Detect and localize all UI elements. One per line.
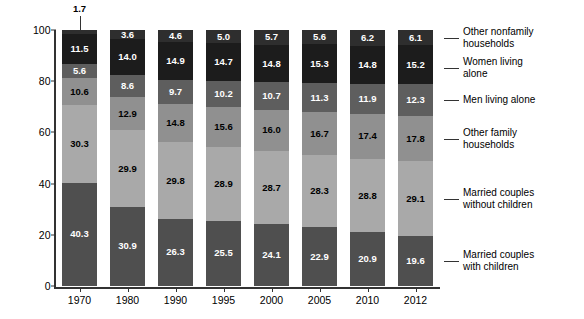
bar-segment: 5.6	[302, 30, 337, 44]
bar-segment	[62, 30, 97, 34]
x-tick-mark	[368, 287, 369, 292]
bar-segment: 6.2	[350, 30, 385, 46]
bar-segment-value: 10.2	[206, 89, 241, 99]
bar-segment-value: 29.9	[110, 164, 145, 174]
legend-label: Married couples with children	[463, 249, 534, 272]
bar-segment: 8.6	[110, 75, 145, 97]
bar-segment-value: 40.3	[62, 230, 97, 240]
bar-segment-value: 28.8	[350, 191, 385, 201]
x-tick-label-1980: 1980	[116, 294, 139, 306]
x-tick-mark	[272, 287, 273, 292]
bar-segment: 11.9	[350, 84, 385, 114]
bar-segment-value: 12.3	[398, 95, 433, 105]
x-tick-label-2000: 2000	[260, 294, 283, 306]
bar-segment-value: 15.2	[398, 60, 433, 70]
bar-segment-value: 5.0	[206, 32, 241, 42]
bar-segment-value: 30.9	[110, 242, 145, 252]
bar-1970: 40.330.310.65.611.5	[62, 30, 97, 286]
bar-segment: 28.3	[302, 155, 337, 227]
bar-segment-value: 5.6	[62, 66, 97, 76]
bar-segment-value: 8.6	[110, 82, 145, 92]
bar-segment-value: 4.6	[158, 31, 193, 41]
bar-segment-value: 6.1	[398, 33, 433, 43]
bar-segment-value: 28.7	[254, 183, 289, 193]
x-tick-mark	[416, 287, 417, 292]
bar-segment-value: 14.8	[350, 60, 385, 70]
bar-segment: 5.0	[206, 30, 241, 43]
bar-segment: 10.7	[254, 82, 289, 109]
bar-segment: 28.8	[350, 159, 385, 233]
legend-label: Men living alone	[463, 94, 535, 106]
bar-segment: 19.6	[398, 236, 433, 286]
x-tick-label-2005: 2005	[308, 294, 331, 306]
bar-segment: 25.5	[206, 221, 241, 286]
callout-leader-line	[80, 16, 81, 30]
legend-leader-line	[444, 100, 459, 101]
bar-segment: 14.8	[350, 46, 385, 84]
bar-segment: 10.6	[62, 78, 97, 105]
legend-leader-line	[444, 199, 459, 200]
bar-segment: 29.8	[158, 142, 193, 218]
bar-segment: 5.7	[254, 30, 289, 45]
x-tick-mark	[320, 287, 321, 292]
bar-segment-value: 17.4	[350, 132, 385, 142]
legend-leader-line	[444, 261, 459, 262]
bar-segment-value: 29.8	[158, 176, 193, 186]
bar-segment: 14.8	[158, 104, 193, 142]
bar-segment-value: 14.8	[254, 59, 289, 69]
bar-segment: 12.9	[110, 97, 145, 130]
legend-label: Other nonfamily households	[463, 26, 534, 49]
bar-segment-value: 11.3	[302, 93, 337, 103]
bar-segment: 15.6	[206, 107, 241, 147]
bar-segment: 22.9	[302, 227, 337, 286]
bar-segment-value: 25.5	[206, 249, 241, 259]
bar-segment: 4.6	[158, 30, 193, 42]
x-tick-label-1990: 1990	[164, 294, 187, 306]
bar-segment-value: 15.3	[302, 59, 337, 69]
bar-segment-value: 12.9	[110, 109, 145, 119]
y-tick-mark	[51, 132, 56, 133]
bar-segment: 16.7	[302, 112, 337, 155]
bar-1980: 30.929.912.98.614.03.6	[110, 30, 145, 286]
bar-segment-value: 26.3	[158, 248, 193, 258]
bar-2005: 22.928.316.711.315.35.6	[302, 30, 337, 286]
bar-2012: 19.629.117.812.315.26.1	[398, 30, 433, 286]
bar-segment-value: 15.6	[206, 122, 241, 132]
x-tick-label-2012: 2012	[404, 294, 427, 306]
legend-leader-line	[444, 68, 459, 69]
bar-segment: 26.3	[158, 219, 193, 286]
y-tick-mark	[51, 30, 56, 31]
bar-segment: 14.8	[254, 45, 289, 83]
bar-segment-value: 14.0	[110, 53, 145, 63]
x-tick-label-1995: 1995	[212, 294, 235, 306]
bar-segment: 28.9	[206, 147, 241, 221]
bar-1995: 25.528.915.610.214.75.0	[206, 30, 241, 286]
bar-segment-value: 14.8	[158, 119, 193, 129]
bar-segment: 11.3	[302, 83, 337, 112]
bar-segment-value: 10.6	[62, 87, 97, 97]
y-tick-label: 60	[39, 126, 51, 138]
bar-segment-value: 19.6	[398, 256, 433, 266]
bar-segment-value: 17.8	[398, 134, 433, 144]
bar-segment-value: 24.1	[254, 250, 289, 260]
bar-segment-value: 22.9	[302, 252, 337, 262]
legend-leader-line	[444, 139, 459, 140]
bar-segment-value: 14.9	[158, 56, 193, 66]
y-tick-mark	[51, 183, 56, 184]
bar-segment-value: 30.3	[62, 139, 97, 149]
stacked-bar-chart: Percentage of Households 020406080100 40…	[0, 0, 584, 319]
bar-segment: 29.1	[398, 161, 433, 235]
x-tick-label-1970: 1970	[68, 294, 91, 306]
bar-segment: 17.4	[350, 114, 385, 159]
bar-segment: 12.3	[398, 84, 433, 115]
bar-segment: 6.1	[398, 30, 433, 46]
bar-segment: 40.3	[62, 183, 97, 286]
bar-segment-value: 28.9	[206, 179, 241, 189]
bar-segment-value: 6.2	[350, 33, 385, 43]
bar-segment: 17.8	[398, 116, 433, 162]
bar-segment-value: 14.7	[206, 57, 241, 67]
y-tick-label: 20	[39, 229, 51, 241]
bar-segment: 10.2	[206, 81, 241, 107]
bar-segment: 28.7	[254, 151, 289, 224]
bar-segment-value: 3.6	[110, 30, 145, 39]
